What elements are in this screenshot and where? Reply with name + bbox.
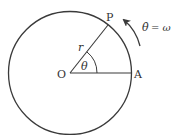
- radius-OP: [70, 25, 108, 73]
- label-point-P: P: [106, 11, 114, 24]
- label-equals-omega: = ω: [151, 22, 171, 33]
- label-radius-r: r: [78, 41, 84, 54]
- label-angle-theta: θ: [81, 60, 88, 73]
- label-theta-dot: θ̇: [142, 21, 149, 34]
- label-point-A: A: [133, 68, 143, 81]
- angle-arc: [87, 52, 97, 73]
- circular-motion-diagram: O A P r θ θ̇ = ω: [0, 0, 173, 135]
- label-center-O: O: [57, 68, 66, 81]
- rotation-arrow-icon: [124, 20, 140, 46]
